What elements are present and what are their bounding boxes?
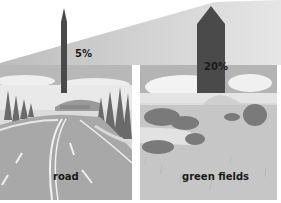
green-fields-percent-label: 20% [204, 61, 228, 72]
road-percent-label: 5% [75, 48, 92, 59]
diagram: 5% 20% road green fields [0, 0, 281, 203]
green-fields-label: green fields [182, 171, 249, 182]
road-label: road [53, 171, 79, 182]
